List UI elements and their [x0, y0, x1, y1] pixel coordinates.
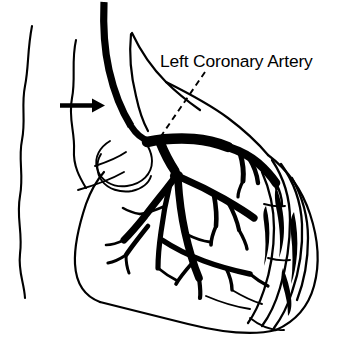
artery-bifurcation-node [170, 170, 183, 182]
coronary-artery-figure: Left Coronary Artery [0, 0, 348, 351]
apical-branch-1 [199, 278, 200, 298]
illustration-canvas: Left Coronary Artery [0, 0, 348, 351]
artery-label: Left Coronary Artery [160, 51, 313, 71]
marginal-branch-right-1 [214, 195, 216, 226]
